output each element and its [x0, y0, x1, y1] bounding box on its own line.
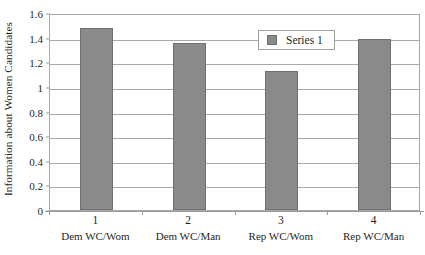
bars-layer [50, 15, 419, 210]
x-tick-number: 3 [235, 214, 328, 226]
bar-chart: Information about Women Candidates 00.20… [0, 0, 425, 255]
y-axis-title-text: Information about Women Candidates [2, 22, 14, 196]
x-tick-number: 1 [49, 214, 142, 226]
y-tick-label: 0.8 [29, 107, 43, 119]
legend-swatch-series-1 [267, 35, 277, 45]
y-tick-label: 1.6 [29, 8, 43, 20]
x-category-label: Rep WC/Man [327, 230, 420, 242]
y-tick-label: 1 [38, 82, 44, 94]
legend-label-series-1: Series 1 [286, 34, 323, 46]
bar[interactable] [265, 71, 298, 210]
y-tick-label: 0.4 [29, 156, 43, 168]
bar-slot [50, 15, 143, 210]
plot-area [49, 14, 420, 211]
x-axis-category-labels: Dem WC/WomDem WC/ManRep WC/WomRep WC/Man [49, 230, 420, 250]
chart-legend: Series 1 [258, 30, 335, 50]
bar-slot [328, 15, 421, 210]
x-tick-number: 2 [142, 214, 235, 226]
y-tick-label: 1.4 [29, 33, 43, 45]
bar[interactable] [173, 43, 206, 210]
x-category-label: Dem WC/Man [142, 230, 235, 242]
bar[interactable] [80, 28, 113, 210]
x-tick-number: 4 [327, 214, 420, 226]
bar-slot [143, 15, 236, 210]
y-tick-label: 1.2 [29, 57, 43, 69]
x-axis-tick-numbers: 1234 [49, 214, 420, 230]
x-tick-mark [420, 211, 421, 215]
x-category-label: Rep WC/Wom [235, 230, 328, 242]
y-tick-label: 0.2 [29, 180, 43, 192]
bar[interactable] [358, 39, 391, 210]
y-axis-title: Information about Women Candidates [0, 0, 16, 218]
y-tick-label: 0.6 [29, 131, 43, 143]
y-tick-label: 0 [38, 205, 44, 217]
x-category-label: Dem WC/Wom [49, 230, 142, 242]
y-axis-tick-labels: 00.20.40.60.811.21.41.6 [16, 14, 46, 211]
